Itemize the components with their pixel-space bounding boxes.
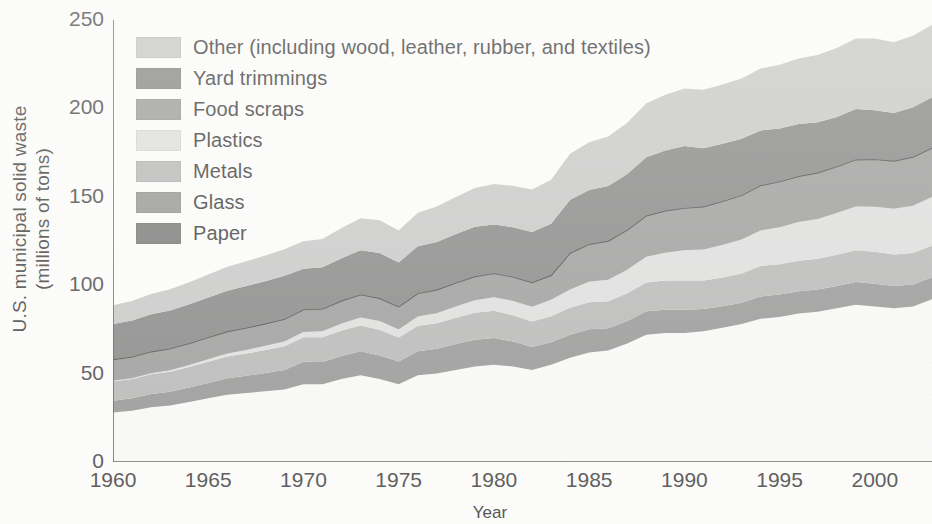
x-tick-1960: 1960 — [90, 468, 137, 492]
x-tick-1970: 1970 — [280, 468, 327, 492]
x-tick-1965: 1965 — [185, 468, 232, 492]
x-tick-2000: 2000 — [852, 468, 899, 492]
legend-item[interactable]: Metals — [136, 156, 651, 187]
y-axis-label-line1: U.S. municipal solid waste — [8, 54, 31, 384]
x-tick-1995: 1995 — [756, 468, 803, 492]
y-tick-100: 100 — [44, 272, 104, 296]
legend-item[interactable]: Other (including wood, leather, rubber, … — [136, 32, 651, 63]
y-tick-200: 200 — [44, 95, 104, 119]
x-tick-1985: 1985 — [566, 468, 613, 492]
legend-item[interactable]: Plastics — [136, 125, 651, 156]
legend-item-label: Yard trimmings — [193, 67, 327, 90]
legend-swatch-icon — [136, 192, 181, 213]
x-axis-label-text: Year — [473, 503, 507, 522]
waste-composition-figure: U.S. municipal solid waste (millions of … — [0, 0, 932, 524]
chart-legend: Other (including wood, leather, rubber, … — [136, 32, 651, 249]
legend-item-label: Plastics — [193, 129, 263, 152]
legend-item-label: Food scraps — [193, 98, 304, 121]
legend-item[interactable]: Glass — [136, 187, 651, 218]
y-tick-250: 250 — [44, 7, 104, 31]
legend-item-label: Metals — [193, 160, 253, 183]
legend-item[interactable]: Food scraps — [136, 94, 651, 125]
legend-item-label: Paper — [193, 222, 247, 245]
legend-swatch-icon — [136, 68, 181, 89]
legend-item-label: Glass — [193, 191, 245, 214]
y-axis-tick-labels: 050100150200250 — [30, 0, 104, 524]
legend-item[interactable]: Yard trimmings — [136, 63, 651, 94]
legend-swatch-icon — [136, 130, 181, 151]
legend-item[interactable]: Paper — [136, 218, 651, 249]
x-tick-1980: 1980 — [471, 468, 518, 492]
legend-swatch-icon — [136, 99, 181, 120]
x-tick-1990: 1990 — [661, 468, 708, 492]
legend-item-label: Other (including wood, leather, rubber, … — [193, 36, 651, 59]
x-tick-1975: 1975 — [375, 468, 422, 492]
y-tick-150: 150 — [44, 184, 104, 208]
y-tick-50: 50 — [44, 361, 104, 385]
legend-swatch-icon — [136, 161, 181, 182]
legend-swatch-icon — [136, 223, 181, 244]
x-axis-label: Year — [0, 503, 932, 523]
legend-swatch-icon — [136, 37, 181, 58]
